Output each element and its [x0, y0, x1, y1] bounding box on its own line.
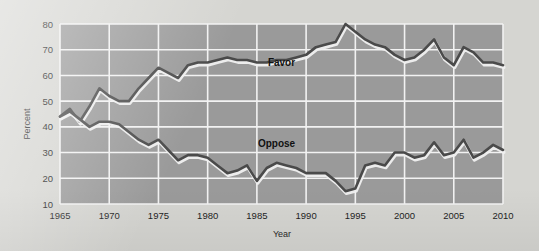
y-tick-40: 40	[42, 121, 53, 132]
x-tick-2010: 2010	[492, 210, 513, 221]
x-tick-2000: 2000	[394, 210, 415, 221]
y-tick-30: 30	[42, 147, 53, 158]
x-tick-1970: 1970	[99, 210, 120, 221]
x-tick-2005: 2005	[443, 210, 464, 221]
figure-container: 1965197019751980198519901995200020052010…	[0, 0, 539, 251]
y-tick-10: 10	[42, 199, 53, 210]
x-tick-1990: 1990	[296, 210, 317, 221]
x-tick-1995: 1995	[345, 210, 366, 221]
favor-oppose-line-chart: 1965197019751980198519901995200020052010…	[0, 0, 539, 251]
x-tick-1965: 1965	[49, 210, 70, 221]
y-axis-title: Percent	[22, 108, 32, 140]
y-tick-60: 60	[42, 70, 53, 81]
x-tick-1985: 1985	[246, 210, 267, 221]
x-axis-title: Year	[273, 229, 291, 239]
plot-area-background	[60, 24, 503, 204]
y-tick-80: 80	[42, 19, 53, 30]
y-tick-70: 70	[42, 44, 53, 55]
y-tick-20: 20	[42, 173, 53, 184]
x-tick-1980: 1980	[197, 210, 218, 221]
series-annotation-oppose: Oppose	[258, 138, 296, 149]
series-annotation-favor: Favor	[268, 57, 295, 68]
x-tick-1975: 1975	[148, 210, 169, 221]
y-tick-50: 50	[42, 96, 53, 107]
